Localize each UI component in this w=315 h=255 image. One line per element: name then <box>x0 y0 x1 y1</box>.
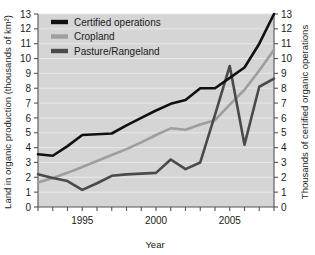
right-axis-tick-label: 1 <box>281 187 287 198</box>
right-axis-tick-label: 2 <box>281 172 287 183</box>
right-axis-tick-label: 4 <box>281 142 287 153</box>
x-axis-title: Year <box>145 239 164 250</box>
right-axis-tick-label: 11 <box>281 38 292 49</box>
left-axis-tick-label: 0 <box>25 202 31 213</box>
left-axis-tick-label: 4 <box>25 142 31 153</box>
legend-label-certified-operations: Certified operations <box>74 17 161 28</box>
y-axis-title: Land in organic production (thousands of… <box>2 15 13 209</box>
left-axis-tick-label: 6 <box>25 113 31 124</box>
left-axis-tick-label: 5 <box>25 127 31 138</box>
left-axis-tick-label: 9 <box>25 68 31 79</box>
right-axis-tick-label: 8 <box>281 83 287 94</box>
left-axis-tick-label: 13 <box>20 9 32 20</box>
x-axis-tick-label: 2000 <box>145 215 168 226</box>
right-axis-tick-label: 6 <box>281 113 287 124</box>
right-axis-tick-label: 12 <box>281 23 293 34</box>
left-axis-tick-label: 12 <box>20 23 32 34</box>
left-axis-tick-label: 11 <box>21 38 32 49</box>
left-axis-tick-label: 10 <box>20 53 32 64</box>
right-axis-tick-label: 3 <box>281 157 287 168</box>
right-axis-tick-label: 13 <box>281 9 293 20</box>
left-axis-tick-label: 1 <box>25 187 31 198</box>
chart-canvas: 012345678910111213 012345678910111213 19… <box>0 0 315 255</box>
x-axis-group: 199520002005 <box>38 207 274 226</box>
legend-label-cropland: Cropland <box>74 31 115 42</box>
right-axis-tick-label: 5 <box>281 127 287 138</box>
x-axis-tick-label: 1995 <box>71 215 94 226</box>
left-axis-group: 012345678910111213 <box>20 9 38 213</box>
left-axis-tick-label: 8 <box>25 83 31 94</box>
right-axis-tick-label: 0 <box>281 202 287 213</box>
legend-label-pasture-rangeland: Pasture/Rangeland <box>74 46 160 57</box>
x-axis-tick-label: 2005 <box>219 215 242 226</box>
organic-production-chart: 012345678910111213 012345678910111213 19… <box>0 0 315 255</box>
right-axis-group: 012345678910111213 <box>274 9 293 213</box>
left-axis-tick-label: 7 <box>25 98 31 109</box>
left-axis-tick-label: 3 <box>25 157 31 168</box>
right-axis-tick-label: 9 <box>281 68 287 79</box>
y2-axis-title: Thousands of certified organic operation… <box>299 25 310 200</box>
right-axis-tick-label: 7 <box>281 98 287 109</box>
left-axis-tick-label: 2 <box>25 172 31 183</box>
right-axis-tick-label: 10 <box>281 53 293 64</box>
